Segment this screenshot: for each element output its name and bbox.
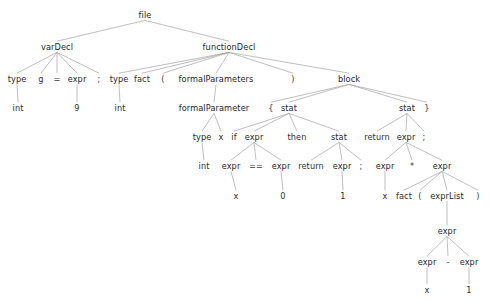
tree-edge (377, 113, 407, 131)
tree-node-fact: fact (134, 75, 150, 84)
tree-node-expr: expr (222, 162, 241, 171)
tree-edge (271, 84, 349, 102)
tree-edge (385, 142, 406, 160)
tree-node-fact: fact (396, 192, 412, 201)
tree-node-int: int (13, 104, 24, 113)
tree-node-expr: expr (460, 258, 479, 267)
tree-node-expr: expr (397, 133, 416, 142)
tree-node-exprList: exprList (430, 192, 463, 201)
tree-edge (406, 113, 407, 131)
tree-node-: ; (98, 75, 101, 84)
tree-node-return: return (298, 162, 324, 171)
tree-node-1: 1 (340, 192, 345, 201)
tree-node-return: return (364, 133, 390, 142)
tree-edge (342, 171, 343, 190)
tree-edge (289, 113, 297, 131)
tree-node-int: int (199, 162, 210, 171)
tree-edge (407, 113, 424, 131)
tree-edge (311, 142, 339, 160)
tree-node-if: if (231, 133, 236, 142)
tree-edge (57, 20, 145, 41)
tree-node-expr: expr (245, 133, 264, 142)
tree-node-expr: expr (68, 75, 87, 84)
tree-node-expr: expr (376, 162, 395, 171)
tree-edge (216, 52, 229, 73)
tree-node-functionDecl: functionDecl (203, 43, 256, 52)
tree-node-type: type (8, 75, 27, 84)
tree-edge (447, 236, 448, 256)
tree-node-stat: stat (399, 104, 415, 113)
tree-edge (339, 142, 342, 160)
tree-edge (254, 113, 289, 131)
tree-edge (349, 84, 427, 102)
tree-node-expr: expr (433, 162, 452, 171)
tree-node-0: 0 (280, 192, 285, 201)
tree-node-expr: expr (438, 227, 457, 236)
tree-node-formalParameter: formalParameter (179, 104, 249, 113)
tree-node-expr: expr (272, 162, 291, 171)
tree-edge (289, 84, 349, 102)
tree-node-stat: stat (331, 133, 347, 142)
tree-edge (234, 113, 289, 131)
tree-edge (57, 52, 77, 73)
tree-node-expr: expr (333, 162, 352, 171)
tree-node-: == (249, 162, 263, 171)
tree-edge (57, 52, 99, 73)
tree-edge (349, 84, 407, 102)
tree-node-: ( (418, 192, 421, 201)
tree-edge (406, 142, 442, 160)
tree-node-: { (268, 104, 273, 113)
tree-node-int: int (115, 104, 126, 113)
tree-node-then: then (287, 133, 306, 142)
tree-edge (442, 171, 447, 190)
tree-node-type: type (193, 133, 212, 142)
tree-edge (231, 142, 254, 160)
tree-edge (254, 142, 256, 160)
tree-edge (41, 52, 57, 73)
tree-node-x: x (219, 133, 224, 142)
parse-tree-diagram: filevarDeclfunctionDecltypeg=expr;int9ty… (0, 0, 491, 305)
tree-edge (281, 171, 283, 190)
tree-node-: = (54, 75, 61, 84)
tree-edge (17, 84, 18, 102)
tree-node-stat: stat (281, 104, 297, 113)
tree-node-: * (410, 162, 414, 171)
tree-edge (447, 236, 469, 256)
tree-node-1: 1 (466, 286, 471, 295)
tree-edge (163, 52, 229, 73)
tree-edge (427, 236, 447, 256)
tree-edge (229, 52, 293, 73)
tree-edge (339, 142, 361, 160)
tree-edge (214, 113, 221, 131)
tree-node-block: block (338, 75, 360, 84)
tree-node-x: x (234, 192, 239, 201)
tree-node-expr: expr (418, 258, 437, 267)
tree-edge (404, 171, 442, 190)
tree-node-: ) (291, 75, 294, 84)
tree-edge (202, 113, 214, 131)
tree-node-varDecl: varDecl (41, 43, 73, 52)
tree-node-type: type (110, 75, 129, 84)
tree-edge (406, 142, 412, 160)
tree-edge (254, 142, 281, 160)
tree-edge (231, 171, 236, 190)
tree-node-: - (446, 258, 449, 267)
tree-node-: ; (423, 133, 426, 142)
tree-edge (202, 142, 204, 160)
tree-node-: ) (476, 192, 479, 201)
tree-node-formalParameters: formalParameters (179, 75, 254, 84)
tree-node-: ; (360, 162, 363, 171)
tree-edge (420, 171, 442, 190)
tree-edge (214, 84, 216, 102)
tree-node-x: x (383, 192, 388, 201)
tree-node-x: x (425, 286, 430, 295)
tree-edge (442, 171, 478, 190)
tree-edge (17, 52, 57, 73)
tree-edge (119, 52, 229, 73)
tree-edge (289, 113, 339, 131)
tree-node-: ( (161, 75, 164, 84)
tree-edge (119, 84, 120, 102)
tree-node-g: g (38, 75, 43, 84)
tree-node-9: 9 (74, 104, 79, 113)
tree-node-: } (424, 104, 429, 113)
